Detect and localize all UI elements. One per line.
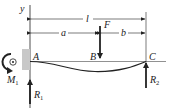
y-axis-label: y <box>19 3 25 14</box>
dimension-a-label: a <box>61 27 66 38</box>
point-b-label: B <box>90 51 96 62</box>
moment-icon <box>2 54 16 74</box>
deflected-beam <box>30 62 146 72</box>
moment-label: M1 <box>6 74 19 86</box>
force-label: F <box>103 19 111 30</box>
point-a-label: A <box>32 51 40 62</box>
dimension-b-label: b <box>121 27 126 38</box>
dimension-l-label: l <box>86 13 89 24</box>
reaction-r1-label: R1 <box>33 89 43 101</box>
reaction-r2-label: R2 <box>149 74 159 86</box>
point-c-label: C <box>149 51 156 62</box>
fixed-wall <box>22 49 30 70</box>
beam-diagram: y l a b F A B C M1 R1 R2 <box>0 0 171 108</box>
